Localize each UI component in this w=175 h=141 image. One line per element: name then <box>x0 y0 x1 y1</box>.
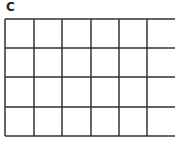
grid-diagram <box>0 0 175 141</box>
